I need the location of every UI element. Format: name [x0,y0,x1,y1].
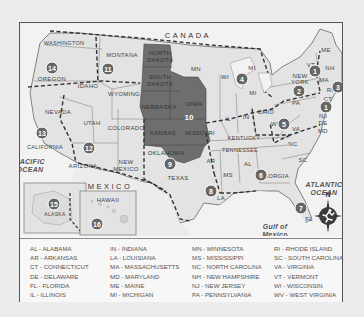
state-label-arizona: ARIZONA [69,163,98,169]
legend-column-2: IN - INDIANA LA - LOUISIANA MA - MASSACH… [110,244,179,299]
region-number-9: 9 [164,158,177,171]
legend-entry: VT - VERMONT [274,272,343,281]
state-label-va: VA [292,126,300,132]
state-label-al: AL [244,161,252,167]
region-number-14: 14 [46,62,59,75]
us-regions-map: CANADA MEXICO PACIFIC OCEAN ATLANTIC OCE… [20,23,342,236]
legend-entry: VA - VIRGINIA [274,262,343,271]
mexico-label: MEXICO [88,182,133,191]
legend-column-1: AL - ALABAMA AR - ARKANSAS CT - CONNECTI… [30,244,89,299]
region-number-4: 4 [236,73,249,86]
state-label-sc: SC [299,157,308,163]
region-number-1-south: 1 [320,101,333,114]
state-label-la: LA [217,195,225,201]
region-number-2: 2 [293,85,306,98]
state-label-mn: MN [191,66,201,72]
legend-entry: CT - CONNECTICUT [30,262,89,271]
legend-entry: DE - DELAWARE [30,272,89,281]
state-label-idaho: IDAHO [78,83,99,89]
state-label-south-dakota: SOUTH DAKOTA [147,74,173,88]
state-label-wyoming: WYOMING [108,91,140,97]
state-label-iowa: IOWA [186,101,203,107]
state-label-hawaii: HAWAII [97,197,120,203]
region-number-13: 13 [36,127,49,140]
state-label-nh: NH [325,65,334,71]
state-label-nc: NC [288,141,297,147]
state-abbreviation-legend: AL - ALABAMA AR - ARKANSAS CT - CONNECTI… [20,238,342,302]
legend-column-3: MN - MINNESOTA MS - MISSISSIPPI NC - NOR… [192,244,262,299]
legend-entry: NC - NORTH CAROLINA [192,262,262,271]
state-label-tennessee: TENNESSEE [222,147,258,153]
legend-entry: ME - MAINE [110,281,179,290]
legend-entry: NH - NEW HAMPSHIRE [192,272,262,281]
state-label-oklahoma: OKLAHOMA [148,150,184,156]
region-number-3: 3 [332,81,343,94]
legend-entry: SC - SOUTH CAROLINA [274,253,343,262]
legend-entry: MI - MICHIGAN [110,290,179,299]
legend-entry: NJ - NEW JERSEY [192,281,262,290]
state-label-ma: MA [319,77,329,83]
state-label-new-mexico: NEW MEXICO [113,159,138,173]
state-label-colorado: COLORADO [108,125,145,131]
state-label-oregon: OREGON [38,76,66,82]
legend-entry: MN - MINNESOTA [192,244,262,253]
state-label-california: CALIFORNIA [27,144,63,150]
gulf-of-mexico-label: Gulf of Mexico [262,223,288,236]
legend-entry: FL - FLORIDA [30,281,89,290]
region-number-16: 16 [91,218,104,231]
compass-runner-icon [314,199,342,233]
pacific-ocean-label: PACIFIC OCEAN [20,158,45,174]
state-label-ar: AR [207,158,216,164]
legend-entry: AL - ALABAMA [30,244,89,253]
state-label-nevada: NEVADA [45,109,71,115]
state-label-alaska: ALASKA [44,211,65,217]
state-label-missouri: MISSOURI [185,130,215,136]
legend-entry: AR - ARKANSAS [30,253,89,262]
compass-rose: N [314,191,342,235]
region-number-7: 7 [295,202,308,215]
state-label-kentucky: KENTUCKY [228,135,260,141]
state-label-nebraska: NEBRASKA [141,104,176,110]
state-label-nj: NJ [319,113,327,119]
legend-column-4: RI - RHODE ISLAND SC - SOUTH CAROLINA VA… [274,244,343,299]
state-label-in: IN [243,114,250,120]
legend-entry: MS - MISSISSIPPI [192,253,262,262]
state-label-il: IL [225,116,231,122]
state-label-mi-upper: MI [248,65,255,71]
map-frame: CANADA MEXICO PACIFIC OCEAN ATLANTIC OCE… [19,22,343,302]
state-label-mi-lower: MI [249,90,256,96]
state-label-utah: UTAH [83,120,100,126]
state-label-de: DE [319,120,328,126]
region-number-11: 11 [102,63,115,76]
state-label-ohio: OHIO [258,109,275,115]
region-number-15: 15 [48,198,61,211]
state-label-north-dakota: NORTH DAKOTA [147,50,173,64]
canada-label: CANADA [165,31,211,40]
state-label-new-york: NEW YORK [291,73,309,85]
legend-entry: PA - PENNSYLVANIA [192,290,262,299]
legend-entry: MD - MARYLAND [110,272,179,281]
region-number-1-north: 1 [309,65,322,78]
legend-entry: WI - WISCONSIN [274,281,343,290]
legend-entry: IN - INDIANA [110,244,179,253]
legend-entry: LA - LOUISIANA [110,253,179,262]
compass-north-label: N [314,191,342,198]
state-label-pa: PA [292,100,300,106]
state-label-fl: FL [305,216,313,222]
state-label-kansas: KANSAS [150,130,176,136]
state-label-ms: MS [223,172,233,178]
state-label-me: ME [321,47,331,53]
state-label-md: MD [318,128,328,134]
state-label-texas: TEXAS [167,175,188,181]
legend-entry: RI - RHODE ISLAND [274,244,343,253]
region-number-12: 12 [83,142,96,155]
region-number-6: 6 [255,169,268,182]
region-number-8: 8 [205,185,218,198]
state-label-washington: WASHINGTON [44,40,85,46]
state-label-wi: WI [221,74,229,80]
legend-entry: MA - MASSACHUSETTS [110,262,179,271]
legend-entry: WV - WEST VIRGINIA [274,290,343,299]
region-number-5: 5 [278,118,291,131]
legend-entry: IL - ILLINOIS [30,290,89,299]
region-number-10: 10 [184,112,195,123]
